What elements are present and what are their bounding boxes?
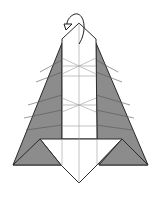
origami-diagram <box>0 0 157 197</box>
center-column <box>62 23 97 139</box>
